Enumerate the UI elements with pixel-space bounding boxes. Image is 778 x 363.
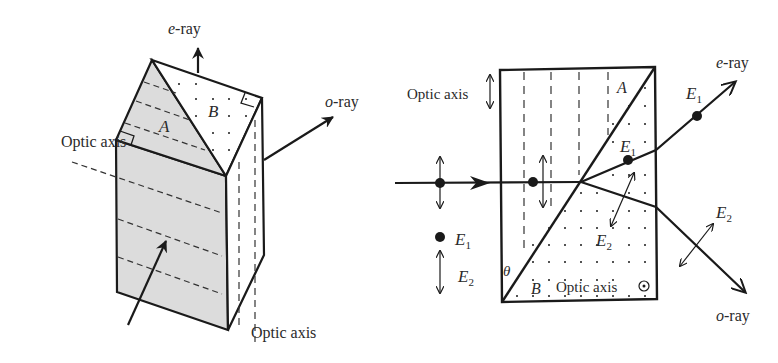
legend-e1: E1 bbox=[454, 230, 471, 251]
label-e-ray: e-ray bbox=[168, 20, 201, 38]
e1-dot-out bbox=[692, 111, 702, 121]
o-ray-arrow bbox=[264, 117, 333, 160]
label-prism-a-right: A bbox=[616, 79, 627, 96]
label-o-ray: o-ray bbox=[325, 93, 359, 111]
label-prism-a: A bbox=[158, 117, 170, 136]
legend-dot-icon bbox=[435, 232, 445, 242]
e-ray-path bbox=[581, 82, 735, 182]
b-region-dots bbox=[516, 87, 646, 297]
label-e2-in: E2 bbox=[595, 231, 612, 252]
e2-arrow-out bbox=[680, 224, 713, 266]
e1-dot-a bbox=[528, 177, 538, 187]
a-region-dashes bbox=[524, 72, 608, 252]
label-optic-axis-left: Optic axis bbox=[61, 133, 126, 151]
label-e2-out: E2 bbox=[715, 203, 732, 224]
left-prism-3d: Optic axis Optic axis A B e-ray o-ray bbox=[61, 20, 359, 342]
out-of-page-dot bbox=[643, 285, 646, 288]
label-o-ray-right: o-ray bbox=[716, 307, 750, 325]
right-prism-section: E1 E2 Optic axis Optic axis A B θ e-ray … bbox=[395, 54, 750, 325]
legend: E1 E2 bbox=[435, 230, 474, 293]
label-e1-in: E1 bbox=[619, 137, 636, 158]
figure: Optic axis Optic axis A B e-ray o-ray bbox=[0, 0, 778, 363]
label-optic-axis-top: Optic axis bbox=[407, 86, 468, 102]
label-e1-out: E1 bbox=[685, 84, 702, 105]
label-prism-b-right: B bbox=[531, 280, 541, 297]
label-theta: θ bbox=[503, 263, 511, 279]
label-optic-axis-bottom-right: Optic axis bbox=[556, 279, 617, 295]
label-prism-b: B bbox=[208, 102, 219, 121]
legend-e2: E2 bbox=[457, 267, 474, 288]
diagram-canvas: Optic axis Optic axis A B e-ray o-ray bbox=[0, 0, 778, 363]
label-optic-axis-bottom: Optic axis bbox=[251, 324, 316, 342]
label-e-ray-right: e-ray bbox=[716, 54, 749, 72]
